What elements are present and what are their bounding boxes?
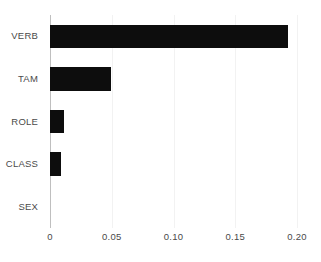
y-tick-label-tam: TAM: [0, 73, 38, 84]
x-tick-label-4: 0.20: [287, 231, 306, 242]
y-tick-label-verb: VERB: [0, 30, 38, 41]
x-axis-labels: 00.050.100.150.20: [0, 231, 321, 249]
x-tick-label-3: 0.15: [226, 231, 245, 242]
bar-class[interactable]: [50, 152, 61, 175]
bar-row: [50, 67, 297, 90]
bar-tam[interactable]: [50, 67, 111, 90]
x-tick-label-1: 0.05: [102, 231, 121, 242]
x-tick-label-0: 0: [47, 231, 52, 242]
bar-verb[interactable]: [50, 25, 288, 48]
y-tick-label-sex: SEX: [0, 201, 38, 212]
bar-row: [50, 110, 297, 133]
bar-chart: VERBTAMROLECLASSSEX 00.050.100.150.20: [0, 0, 321, 262]
y-tick-label-class: CLASS: [0, 158, 38, 169]
bar-row: [50, 25, 297, 48]
bar-row: [50, 195, 297, 218]
x-tick-label-2: 0.10: [164, 231, 183, 242]
y-tick-label-role: ROLE: [0, 116, 38, 127]
y-axis-labels: VERBTAMROLECLASSSEX: [0, 15, 44, 228]
plot-area: [50, 15, 297, 228]
gridline-4: [297, 15, 298, 228]
bar-row: [50, 152, 297, 175]
bar-role[interactable]: [50, 110, 64, 133]
